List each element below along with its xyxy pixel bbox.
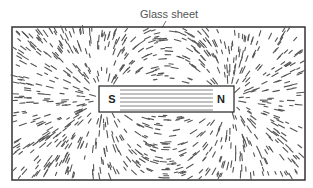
north-pole-label: N — [217, 93, 225, 105]
south-pole-label: S — [108, 93, 115, 105]
magnetic-field-diagram: S N — [0, 0, 313, 188]
bar-magnet: S N — [99, 86, 234, 112]
